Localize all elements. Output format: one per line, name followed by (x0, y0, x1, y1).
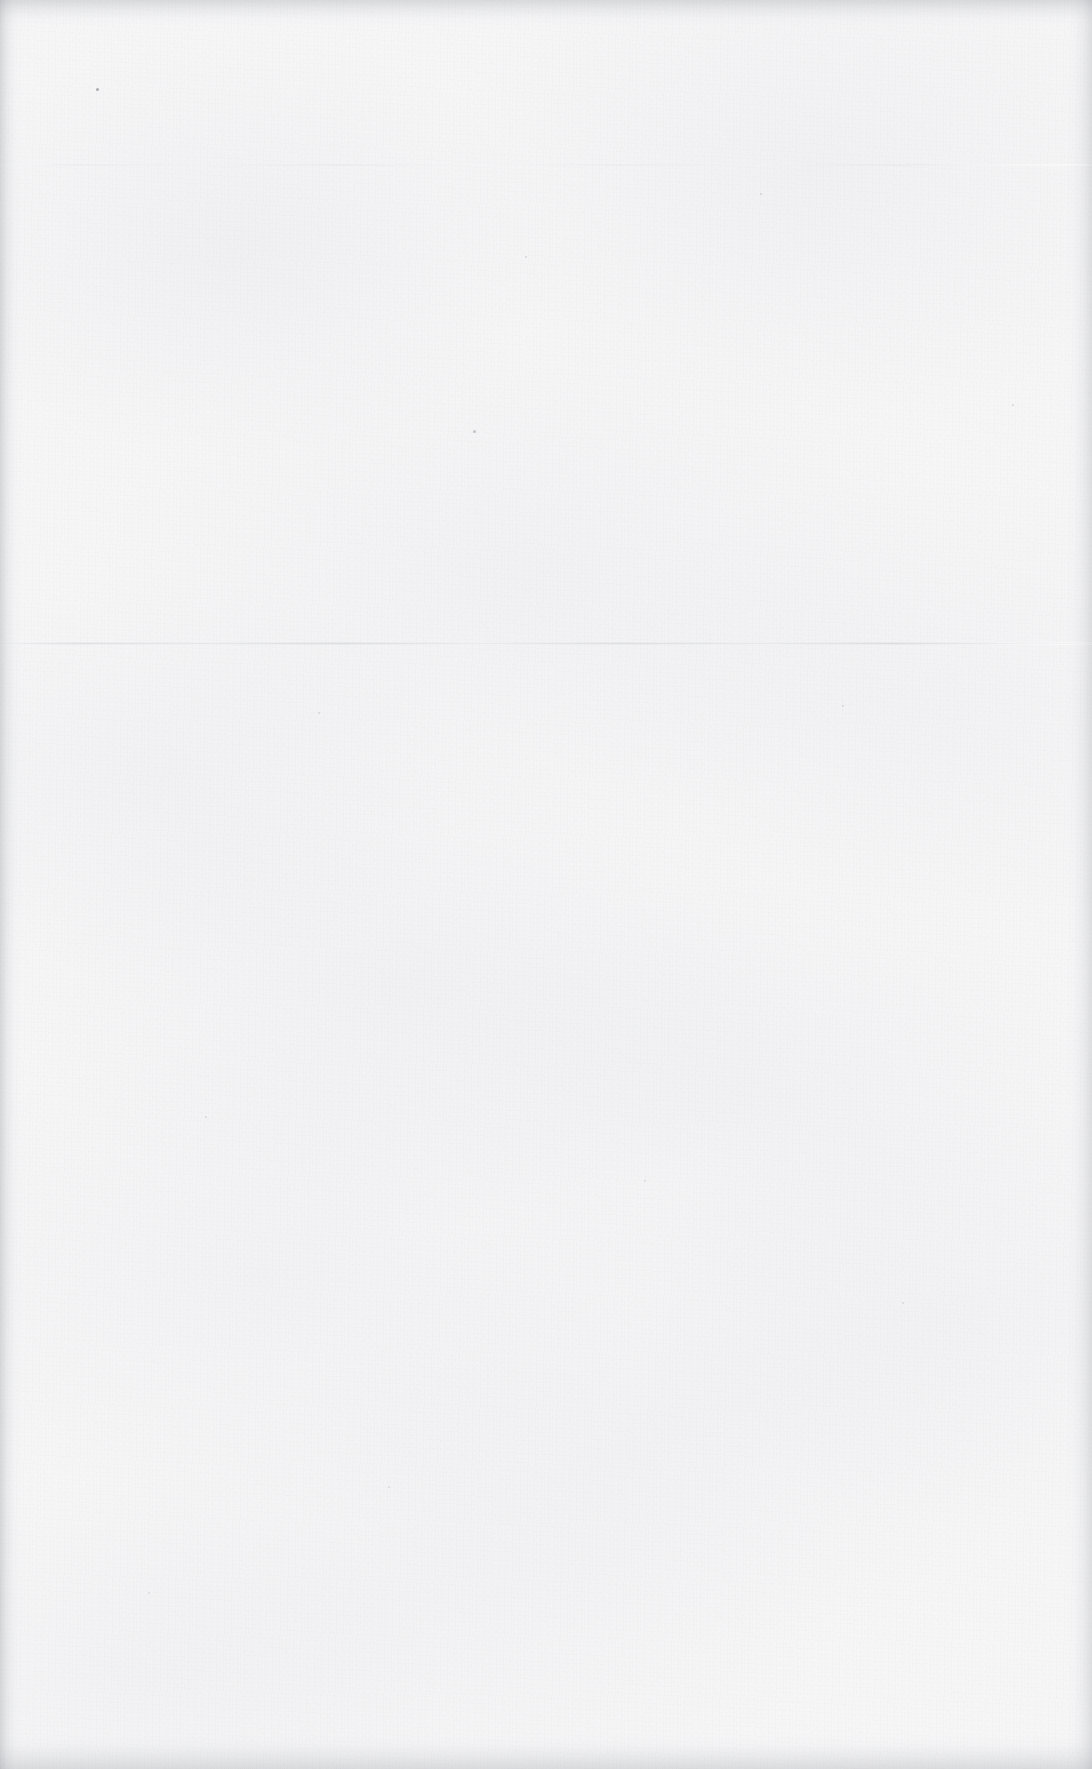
scanned-page (0, 0, 1092, 1769)
paper-background (0, 0, 1092, 1769)
